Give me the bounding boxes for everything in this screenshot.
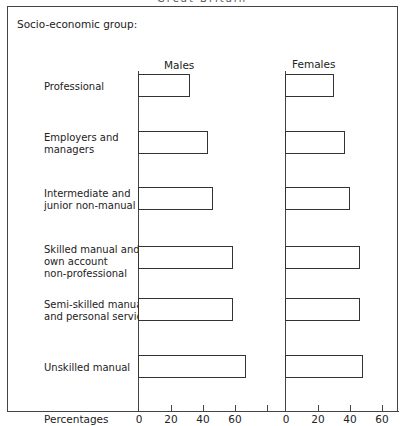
panel-label-males: Males <box>164 59 194 71</box>
tick-mark <box>203 405 204 412</box>
panel-label-females: Females <box>292 58 335 70</box>
tick-label: 0 <box>274 413 298 425</box>
chart-title: Great Britain <box>0 0 404 4</box>
group-heading: Socio-economic group: <box>17 18 137 30</box>
category-label: Professional <box>44 81 104 93</box>
bar-females <box>285 187 350 210</box>
tick-label: 40 <box>191 413 215 425</box>
bar-females <box>285 355 363 378</box>
tick-label: 20 <box>306 413 330 425</box>
tick-label: 0 <box>127 413 151 425</box>
x-axis-label: Percentages <box>44 413 109 425</box>
category-label: Employers and managers <box>44 132 119 156</box>
tick-mark <box>350 405 351 412</box>
tick-mark <box>382 405 383 412</box>
category-label: Skilled manual and own account non-profe… <box>44 244 140 280</box>
bar-females <box>285 74 334 97</box>
category-label: Unskilled manual <box>44 362 130 374</box>
bar-males <box>138 355 246 378</box>
tick-mark <box>235 405 236 412</box>
bar-males <box>138 246 233 269</box>
tick-label: 60 <box>223 413 247 425</box>
bar-males <box>138 74 190 97</box>
bar-females <box>285 131 345 154</box>
tick-label: 40 <box>338 413 362 425</box>
tick-label: 20 <box>159 413 183 425</box>
category-label: Semi-skilled manual and personal service <box>44 299 148 323</box>
bar-females <box>285 246 360 269</box>
category-label: Intermediate and junior non-manual <box>44 188 136 212</box>
tick-mark <box>267 405 268 412</box>
tick-mark <box>318 405 319 412</box>
bar-males <box>138 187 213 210</box>
bar-males <box>138 131 208 154</box>
tick-mark <box>171 405 172 412</box>
bar-females <box>285 298 360 321</box>
bar-males <box>138 298 233 321</box>
tick-label: 60 <box>370 413 394 425</box>
